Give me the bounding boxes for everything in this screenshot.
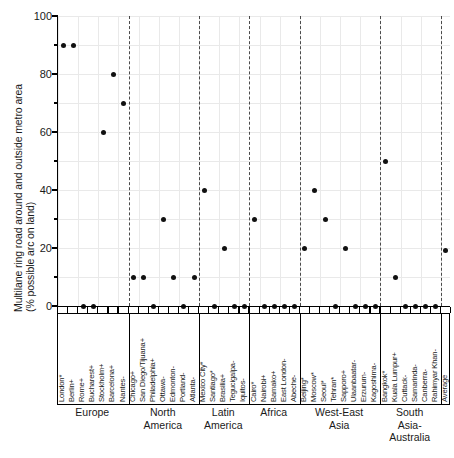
- label-region-separator: [441, 314, 442, 404]
- region-separator: [300, 16, 301, 306]
- region-separator: [441, 16, 442, 306]
- gridline-horizontal: [58, 103, 450, 104]
- region-label: Africa: [260, 406, 287, 419]
- x-axis-category-label: Nairobi+: [260, 375, 268, 402]
- gridline-horizontal: [58, 74, 450, 75]
- data-point: [101, 130, 106, 135]
- data-point: [383, 159, 388, 164]
- y-axis-tick-label: 0: [22, 300, 52, 312]
- data-point: [161, 217, 166, 222]
- data-point: [121, 101, 126, 106]
- x-axis-category-label: Sapporo+: [340, 370, 348, 402]
- gridline-vertical: [260, 16, 261, 306]
- data-point: [71, 43, 76, 48]
- region-label: Europe: [75, 406, 109, 419]
- gridline-vertical: [421, 16, 422, 306]
- x-axis-category-label: Samarinda-: [411, 364, 419, 402]
- data-point: [393, 275, 398, 280]
- gridline-vertical: [401, 16, 402, 306]
- y-axis-tick-major: [52, 247, 58, 248]
- x-axis-category-label: Average: [441, 375, 449, 402]
- region-label: North America: [144, 406, 183, 431]
- data-point: [343, 246, 348, 251]
- x-axis-category-label: Berlin+: [68, 379, 76, 402]
- region-group-labels: EuropeNorth AmericaLatin AmericaAfricaWe…: [57, 406, 450, 440]
- gridline-horizontal: [58, 190, 450, 191]
- gridline-horizontal: [58, 16, 450, 17]
- gridline-horizontal: [58, 161, 450, 162]
- x-axis-category-label: Atlanta-: [189, 377, 197, 402]
- data-point: [202, 188, 207, 193]
- y-axis-tick-major: [52, 131, 58, 132]
- x-axis-category-label: Canberra-: [421, 369, 429, 402]
- gridline-vertical: [58, 16, 59, 306]
- x-axis-category-label: Seoul*: [320, 381, 328, 402]
- data-point: [192, 275, 197, 280]
- y-axis-tick-minor: [54, 160, 58, 161]
- x-axis-category-label: Edmonton-: [169, 366, 177, 402]
- plot-canvas: [57, 16, 450, 306]
- plot-area: [57, 16, 450, 306]
- x-axis-category-label: Bucharest+: [88, 365, 96, 402]
- x-axis-category-label: Kagoshima-: [370, 363, 378, 402]
- data-point: [252, 217, 257, 222]
- x-axis-category-label: Nantes-: [119, 376, 127, 402]
- x-axis-category-label: Barcelona+: [108, 365, 116, 402]
- gridline-vertical: [320, 16, 321, 306]
- x-axis-category-label: Iquitos-: [239, 378, 247, 402]
- x-axis-category-label: Beijing*: [300, 377, 308, 402]
- x-axis-category-label: San Diego/Tijuana+: [139, 338, 147, 402]
- x-axis-category-label: Portland-: [179, 373, 187, 402]
- y-axis-tick-major: [52, 189, 58, 190]
- x-axis-category-label: East London-: [280, 359, 288, 402]
- gridline-vertical: [179, 16, 180, 306]
- y-axis-tick-minor: [54, 218, 58, 219]
- region-separator: [249, 16, 250, 306]
- x-axis-category-labels: London*Berlin+Rome+Bucharest+Stockholm+B…: [57, 313, 450, 405]
- x-axis-category-label: Brasilia+: [219, 374, 227, 402]
- gridline-vertical: [219, 16, 220, 306]
- label-region-separator: [249, 314, 250, 404]
- y-axis-tick-minor: [54, 276, 58, 277]
- x-axis-category-label: Erzurum-: [360, 372, 368, 402]
- x-axis-category-label: Ulaanbaatar-: [350, 360, 358, 402]
- gridline-horizontal: [58, 132, 450, 133]
- gridline-vertical: [280, 16, 281, 306]
- label-region-separator: [300, 314, 301, 404]
- region-label: South Asia- Australia: [389, 406, 430, 444]
- x-axis-category-label: Santiago*: [209, 370, 217, 402]
- gridline-vertical: [360, 16, 361, 306]
- y-axis-tick-major: [52, 73, 58, 74]
- x-axis-category-label: Bangkok*: [381, 371, 389, 402]
- region-separator: [380, 16, 381, 306]
- x-axis-category-label: Bamako+: [270, 371, 278, 402]
- x-axis-tick: [450, 307, 451, 313]
- x-axis-category-label: Cairo*: [250, 382, 258, 402]
- region-label: Latin America: [204, 406, 243, 431]
- data-point: [171, 275, 176, 280]
- y-axis-tick-minor: [54, 44, 58, 45]
- x-axis-category-label: Moscow*: [310, 372, 318, 402]
- data-point: [222, 246, 227, 251]
- region-label: West-East Asia: [315, 406, 363, 431]
- y-axis-tick-labels: 020406080100: [22, 16, 52, 306]
- data-point: [61, 43, 66, 48]
- label-region-separator: [199, 314, 200, 404]
- y-axis-tick-minor: [54, 102, 58, 103]
- gridline-horizontal: [58, 248, 450, 249]
- x-axis-category-label: Tegucigalpa-: [229, 361, 237, 402]
- data-point: [131, 275, 136, 280]
- x-axis-category-label: Abeche-: [290, 375, 298, 402]
- data-point: [312, 188, 317, 193]
- y-axis-tick-label: 100: [22, 10, 52, 22]
- x-axis-category-label: Chicago+: [129, 371, 137, 402]
- data-point: [323, 217, 328, 222]
- x-axis-category-label: Philadelphia+: [149, 358, 157, 402]
- gridline-vertical: [139, 16, 140, 306]
- data-point: [141, 275, 146, 280]
- data-point: [111, 72, 116, 77]
- gridline-vertical: [159, 16, 160, 306]
- label-region-separator: [129, 314, 130, 404]
- data-point: [302, 246, 307, 251]
- chart-figure: Multilane ring road around and outside m…: [0, 0, 454, 458]
